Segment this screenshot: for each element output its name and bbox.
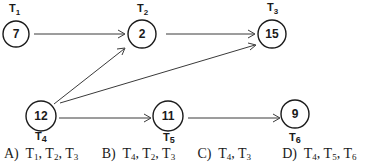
task-graph: T1 7 T2 2 T3 15 12 T4 11 T5 9 T6 xyxy=(0,0,372,146)
node-t3: T3 15 xyxy=(258,1,286,48)
node-value: 7 xyxy=(13,27,20,41)
option-letter: A) xyxy=(4,146,19,161)
node-label: T1 xyxy=(9,2,21,17)
node-t4: 12 T4 xyxy=(26,101,56,144)
option-d[interactable]: D) T4, T5, T6 xyxy=(282,146,372,164)
task-sub: 6 xyxy=(352,152,357,162)
task-sub: 4 xyxy=(312,152,317,162)
diagram-canvas: T1 7 T2 2 T3 15 12 T4 11 T5 9 T6 xyxy=(0,0,372,165)
option-letter: C) xyxy=(197,146,211,161)
task-name: T xyxy=(218,146,227,161)
task-sub: 3 xyxy=(74,152,79,162)
node-value: 9 xyxy=(292,107,299,121)
option-letter: B) xyxy=(102,146,116,161)
node-label: T3 xyxy=(267,1,279,16)
node-value: 11 xyxy=(162,109,175,123)
option-b[interactable]: B) T4, T2, T3 xyxy=(102,146,198,164)
option-c[interactable]: C) T4, T3 xyxy=(197,146,282,164)
task-name: T xyxy=(122,146,131,161)
node-t1: T1 7 xyxy=(3,2,29,47)
node-label: T4 xyxy=(35,130,47,144)
edge-t4-t2 xyxy=(54,49,124,104)
node-t6: 9 T6 xyxy=(281,100,309,145)
option-letter: D) xyxy=(282,146,297,161)
task-sub: 4 xyxy=(131,152,136,162)
task-name: T xyxy=(343,146,352,161)
task-sub: 2 xyxy=(151,152,156,162)
node-label: T2 xyxy=(137,2,149,17)
task-sub: 3 xyxy=(247,152,252,162)
task-sub: 2 xyxy=(54,152,59,162)
task-name: T xyxy=(45,146,54,161)
node-label: T6 xyxy=(289,131,301,145)
answer-options: A) T1, T2, T3 B) T4, T2, T3 C) T4, T3 D)… xyxy=(4,146,372,164)
task-name: T xyxy=(65,146,74,161)
node-t2: T2 2 xyxy=(128,2,156,48)
task-sub: 1 xyxy=(34,152,39,162)
task-sub: 4 xyxy=(227,152,232,162)
task-sub: 5 xyxy=(332,152,337,162)
node-value: 15 xyxy=(265,27,279,41)
task-name: T xyxy=(324,146,333,161)
node-value: 2 xyxy=(139,27,146,41)
task-name: T xyxy=(238,146,247,161)
task-name: T xyxy=(26,146,35,161)
node-value: 12 xyxy=(34,109,48,123)
node-t5: 11 T5 xyxy=(153,101,183,145)
task-sub: 3 xyxy=(171,152,176,162)
edge-t4-t3 xyxy=(60,45,255,103)
task-name: T xyxy=(142,146,151,161)
task-name: T xyxy=(162,146,171,161)
node-label: T5 xyxy=(163,131,175,145)
option-a[interactable]: A) T1, T2, T3 xyxy=(4,146,102,164)
